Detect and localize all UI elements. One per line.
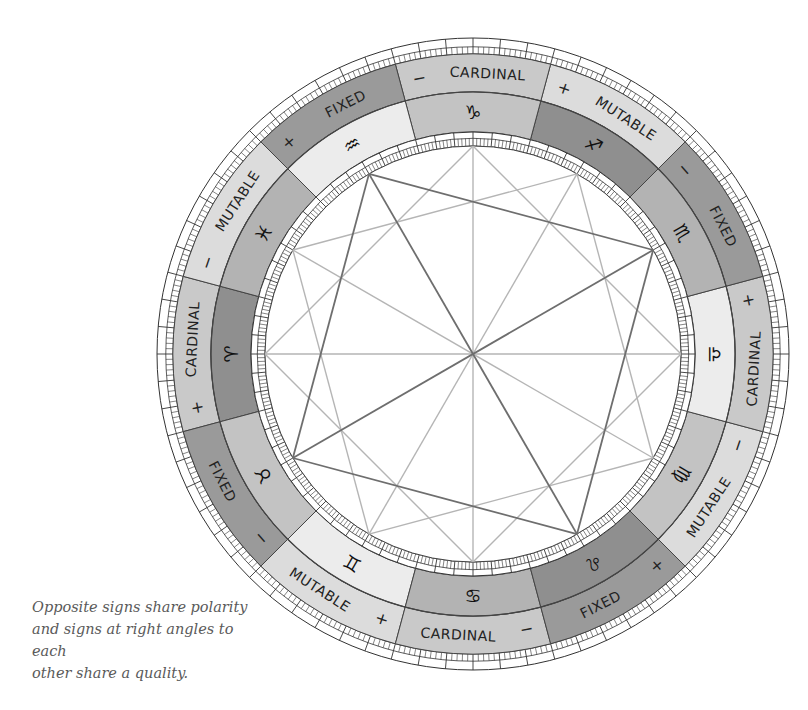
capricorn-glyph-icon: ♑ xyxy=(464,101,481,123)
aries-glyph-icon: ♈ xyxy=(220,345,242,362)
libra-glyph-icon: ♎ xyxy=(704,345,726,362)
cancer-glyph-icon: ♋ xyxy=(464,585,481,607)
aspect-chart xyxy=(265,146,681,562)
caption-line-1: Opposite signs share polarity xyxy=(32,596,272,618)
caption-line-3: other share a quality. xyxy=(32,662,272,684)
caption-line-2: and signs at right angles to each xyxy=(32,618,272,662)
caption: Opposite signs share polarity and signs … xyxy=(32,596,272,684)
